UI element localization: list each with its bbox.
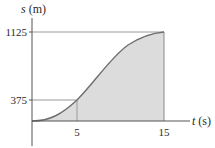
y-axis-label: s (m) [21, 2, 46, 16]
x-tick-label-15: 15 [159, 126, 171, 138]
y-tick-label-375: 375 [11, 94, 28, 106]
x-axis-label: t (s) [192, 114, 211, 128]
y-tick-label-1125: 1125 [5, 26, 27, 38]
position-time-chart: s (m) 1125 375 5 15 t (s) [0, 0, 215, 148]
chart-canvas: s (m) 1125 375 5 15 t (s) [0, 0, 215, 148]
x-tick-label-5: 5 [74, 126, 80, 138]
